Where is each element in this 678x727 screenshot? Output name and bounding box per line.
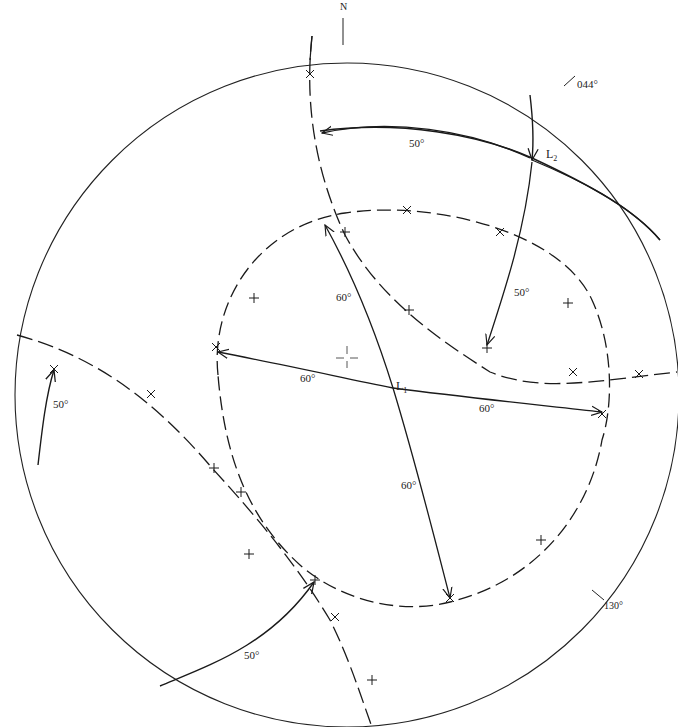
- lineation-label-L1: L1: [396, 380, 407, 395]
- angle-label: 60°: [401, 480, 416, 491]
- stereonet-svg: [0, 0, 678, 727]
- angle-label: 60°: [479, 403, 494, 414]
- arrow-50-L2-down: [487, 162, 532, 345]
- strike-tick-130: [592, 590, 604, 600]
- angle-label: 50°: [514, 287, 529, 298]
- angle-label: 50°: [53, 399, 68, 410]
- great-circle-solid-right: [532, 160, 660, 240]
- great-circle-dashed-left: [17, 335, 372, 727]
- lineation-path-L2: [530, 95, 533, 160]
- north-label: N: [340, 2, 347, 12]
- primitive-circle: [15, 63, 678, 727]
- strike-label-044: 044°: [577, 79, 598, 90]
- strike-label-130: 130°: [604, 601, 623, 611]
- arrow-60-up: [325, 225, 393, 388]
- angle-label: 60°: [336, 292, 351, 303]
- strike-tick-044: [564, 76, 575, 86]
- lineation-label-L2: L2: [546, 148, 557, 163]
- angle-label: 50°: [409, 138, 424, 149]
- stereonet-figure: N 044° 130° L1 L2 50° 50° 60° 60° 60° 60…: [0, 0, 678, 727]
- center-cross-icon: [336, 346, 358, 368]
- small-circle-dashed: [217, 210, 609, 607]
- arrow-50-top: [322, 126, 530, 158]
- arrow-50-left: [38, 370, 54, 465]
- arrow-60-down: [393, 388, 450, 598]
- arrow-50-bottom: [160, 582, 314, 686]
- angle-label: 50°: [244, 650, 259, 661]
- arrow-60-right: [393, 388, 602, 412]
- great-circle-solid-L2: [320, 127, 660, 240]
- angle-label: 60°: [300, 373, 315, 384]
